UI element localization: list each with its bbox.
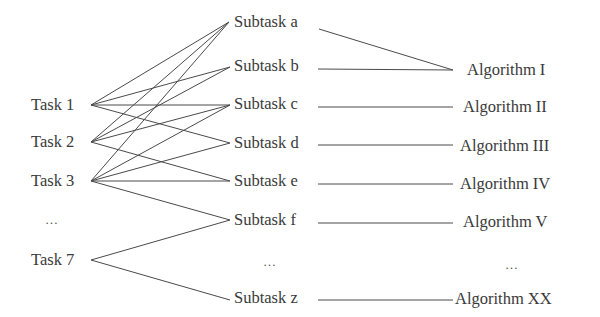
task-7-label: Task 7 — [31, 251, 74, 269]
subtask-z-label: Subtask z — [234, 289, 298, 307]
edge-task7-subtask-f — [91, 220, 230, 260]
subtask-b-label: Subtask b — [234, 57, 299, 75]
algorithm-4-label: Algorithm IV — [460, 175, 550, 193]
task-2-label: Task 2 — [31, 133, 74, 151]
task-3-label: Task 3 — [31, 172, 74, 190]
algorithm-ellipsis: … — [505, 256, 519, 274]
edge-task3-subtask-a — [91, 22, 229, 181]
edge-task3-subtask-c — [91, 105, 230, 181]
subtask-c-label: Subtask c — [234, 95, 298, 113]
edge-task1-subtask-a — [91, 22, 229, 105]
algorithm-3-label: Algorithm III — [460, 137, 549, 155]
edge-task1-subtask-b — [91, 67, 230, 105]
algorithm-5-label: Algorithm V — [463, 213, 548, 231]
edge-task7-subtask-z — [91, 260, 230, 300]
edge-task3-subtask-f — [91, 181, 230, 220]
edge-subtask-b-alg1 — [318, 69, 453, 70]
algorithm-20-label: Algorithm XX — [455, 290, 552, 308]
task-decomposition-diagram: Task 1 Task 2 Task 3 … Task 7 Subtask a … — [0, 0, 600, 317]
subtask-a-label: Subtask a — [234, 13, 298, 31]
task-ellipsis: … — [45, 211, 59, 229]
algorithm-2-label: Algorithm II — [463, 98, 547, 116]
subtask-e-label: Subtask e — [234, 172, 298, 190]
subtask-ellipsis: … — [263, 253, 277, 271]
subtask-f-label: Subtask f — [234, 211, 296, 229]
algorithm-1-label: Algorithm I — [467, 61, 545, 79]
edge-subtask-a-alg1 — [319, 29, 453, 70]
task-1-label: Task 1 — [31, 96, 74, 114]
subtask-d-label: Subtask d — [234, 134, 299, 152]
